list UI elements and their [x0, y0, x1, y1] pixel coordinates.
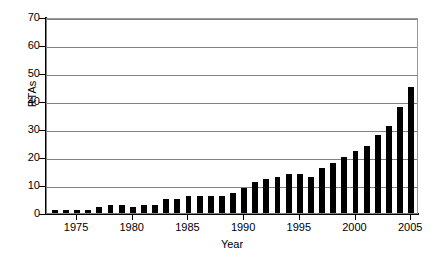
bar [130, 207, 136, 213]
y-axis-tickmark [39, 18, 46, 19]
y-axis-tick-label: 70 [14, 12, 40, 23]
bar [353, 151, 359, 213]
y-axis-tick-labels: 010203040506070 [14, 0, 40, 260]
x-axis-tickmark [243, 215, 244, 220]
bar [375, 135, 381, 213]
bar [397, 107, 403, 213]
bar [252, 182, 258, 213]
bar [330, 163, 336, 213]
x-axis-tick-label: 2000 [335, 221, 375, 233]
y-axis-tickmark [39, 214, 46, 215]
bar [74, 210, 80, 213]
y-axis-tickmark [39, 74, 46, 75]
bar [286, 174, 292, 213]
bar [341, 157, 347, 213]
bar [408, 87, 414, 213]
y-axis-tick-label: 50 [14, 68, 40, 79]
bar [163, 199, 169, 213]
x-axis-tick-label: 1980 [112, 221, 152, 233]
bar [52, 210, 58, 213]
bar [186, 196, 192, 213]
x-axis-tickmark [355, 215, 356, 220]
x-axis-tickmark [132, 215, 133, 220]
x-axis-tick-label: 1975 [56, 221, 96, 233]
x-axis-tick-label: 1995 [279, 221, 319, 233]
x-axis-title: Year [46, 238, 418, 250]
y-axis-tick-label: 0 [14, 208, 40, 219]
y-axis-tick-label: 20 [14, 152, 40, 163]
bar [108, 205, 114, 213]
y-axis-tick-label: 40 [14, 96, 40, 107]
y-axis-tick-label: 30 [14, 124, 40, 135]
bar [174, 199, 180, 213]
bar [63, 210, 69, 213]
bar [197, 196, 203, 213]
bar [230, 193, 236, 213]
bar [219, 196, 225, 213]
x-axis-tickmark [410, 215, 411, 220]
bar [297, 174, 303, 213]
bar [386, 126, 392, 213]
bar [141, 205, 147, 213]
plot-area [46, 18, 418, 214]
bar [275, 177, 281, 213]
y-axis-tickmark [39, 158, 46, 159]
rtas-bar-chart: RTAs 010203040506070 Year 19751980198519… [0, 0, 434, 260]
bar [152, 205, 158, 213]
x-axis-tickmark [76, 215, 77, 220]
x-axis-tickmark [299, 215, 300, 220]
bar [319, 168, 325, 213]
bars-layer [47, 19, 417, 213]
y-axis-tickmark [39, 186, 46, 187]
bar [263, 179, 269, 213]
bar [119, 205, 125, 213]
x-axis-tickmark [187, 215, 188, 220]
bar [308, 177, 314, 213]
x-axis-tick-label: 1985 [167, 221, 207, 233]
y-axis-tickmark [39, 46, 46, 47]
x-axis-tick-label: 2005 [390, 221, 430, 233]
bar [364, 146, 370, 213]
x-axis-tick-label: 1990 [223, 221, 263, 233]
bar [96, 207, 102, 213]
y-axis-tickmark [39, 130, 46, 131]
bar [241, 188, 247, 213]
bar [85, 210, 91, 213]
y-axis-tick-label: 10 [14, 180, 40, 191]
y-axis-tick-label: 60 [14, 40, 40, 51]
bar [208, 196, 214, 213]
y-axis-tickmark [39, 102, 46, 103]
